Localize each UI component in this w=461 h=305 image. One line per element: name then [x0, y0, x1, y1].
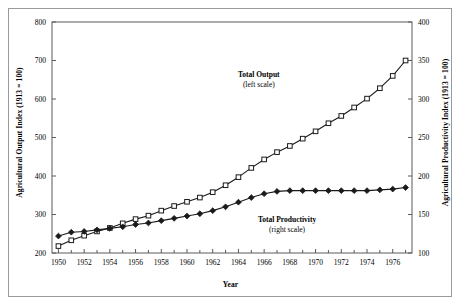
plot-frame: [52, 22, 412, 253]
x-axis-tick-label: 1966: [257, 258, 272, 267]
data-point-marker: [69, 238, 74, 243]
data-point-marker: [236, 175, 241, 180]
data-point-marker: [197, 211, 203, 217]
data-point-marker: [326, 121, 331, 126]
data-point-marker: [68, 229, 74, 235]
x-axis-tick-label: 1952: [77, 258, 92, 267]
data-point-marker: [365, 96, 370, 101]
x-axis-tick-label: 1970: [308, 258, 323, 267]
y-axis-right-tick-label: 250: [418, 133, 430, 142]
x-axis-tick-label: 1968: [282, 258, 297, 267]
data-point-marker: [352, 105, 357, 110]
data-point-marker: [288, 144, 293, 149]
data-point-marker: [236, 199, 242, 205]
y-axis-right-tick-label: 150: [418, 210, 430, 219]
data-point-marker: [390, 186, 396, 192]
data-point-marker: [159, 208, 164, 213]
x-axis-tick-label: 1950: [51, 258, 66, 267]
series-total-output: [56, 58, 408, 248]
data-point-marker: [146, 213, 151, 218]
data-point-marker: [184, 213, 190, 219]
data-point-marker: [390, 74, 395, 79]
data-point-marker: [198, 195, 203, 200]
data-point-marker: [339, 114, 344, 119]
data-point-marker: [403, 185, 409, 191]
annotation-output-scale: (left scale): [238, 80, 280, 90]
annotation-productivity-label: Total Productivity: [258, 215, 316, 225]
data-point-marker: [133, 222, 139, 228]
data-point-marker: [262, 157, 267, 162]
y-axis-left-tick-label: 400: [35, 172, 47, 181]
y-axis-left-tick-label: 200: [35, 249, 47, 258]
series-annotation-total-output: Total Output (left scale): [238, 70, 280, 90]
y-axis-left-title: Agricultural Output Index (1913 = 100): [15, 53, 24, 213]
data-point-marker: [274, 189, 280, 195]
data-point-marker: [364, 188, 370, 194]
series-total-productivity: [56, 185, 409, 239]
series-annotation-total-productivity: Total Productivity (right scale): [258, 215, 316, 235]
x-axis-tick-label: 1964: [231, 258, 246, 267]
data-point-marker: [326, 188, 332, 194]
data-point-marker: [300, 188, 306, 194]
data-point-marker: [377, 187, 383, 193]
annotation-productivity-scale: (right scale): [258, 225, 316, 235]
data-point-marker: [223, 204, 229, 210]
data-point-marker: [223, 183, 228, 188]
x-axis-tick-label: 1976: [385, 258, 400, 267]
x-axis-tick-label: 1956: [128, 258, 143, 267]
y-axis-right-title: Agricultural Productivity Index (1913 = …: [441, 53, 450, 213]
data-point-marker: [338, 188, 344, 194]
data-point-marker: [378, 86, 383, 91]
y-axis-left-tick-label: 600: [35, 95, 47, 104]
data-point-marker: [133, 217, 138, 222]
data-point-marker: [300, 136, 305, 141]
data-point-marker: [261, 191, 267, 197]
y-axis-right-tick-label: 350: [418, 56, 430, 65]
y-axis-right-tick-label: 400: [418, 18, 430, 27]
y-axis-left-tick-label: 300: [35, 210, 47, 219]
x-axis-tick-label: 1972: [334, 258, 349, 267]
y-axis-right-tick-label: 300: [418, 95, 430, 104]
series-line: [58, 61, 405, 247]
data-point-marker: [185, 199, 190, 204]
y-axis-left-tick-label: 800: [35, 18, 47, 27]
annotation-output-label: Total Output: [238, 70, 280, 80]
data-point-marker: [248, 195, 254, 201]
data-point-marker: [172, 204, 177, 209]
chart-figure: 2003004005006007008001001502002503003504…: [0, 0, 461, 305]
x-axis-tick-label: 1974: [360, 258, 375, 267]
x-axis-tick-label: 1962: [205, 258, 220, 267]
y-axis-right-tick-label: 200: [418, 172, 430, 181]
chart-plot-area: 2003004005006007008001001502002503003504…: [0, 0, 461, 305]
data-point-marker: [171, 215, 177, 221]
data-point-marker: [210, 190, 215, 195]
data-point-marker: [56, 233, 62, 239]
data-point-marker: [313, 129, 318, 134]
data-point-marker: [249, 166, 254, 171]
data-point-marker: [403, 58, 408, 63]
data-point-marker: [351, 188, 357, 194]
x-axis-title: Year: [0, 280, 461, 289]
data-point-marker: [210, 208, 216, 214]
data-point-marker: [158, 218, 164, 224]
y-axis-left-tick-label: 700: [35, 56, 47, 65]
data-point-marker: [275, 150, 280, 155]
data-point-marker: [56, 244, 61, 249]
data-point-marker: [146, 220, 152, 226]
y-axis-right-tick-label: 100: [418, 249, 430, 258]
data-point-marker: [287, 188, 293, 194]
data-point-marker: [313, 188, 319, 194]
x-axis-tick-label: 1954: [102, 258, 117, 267]
y-axis-left-tick-label: 500: [35, 133, 47, 142]
x-axis-tick-label: 1960: [180, 258, 195, 267]
x-axis-tick-label: 1958: [154, 258, 169, 267]
